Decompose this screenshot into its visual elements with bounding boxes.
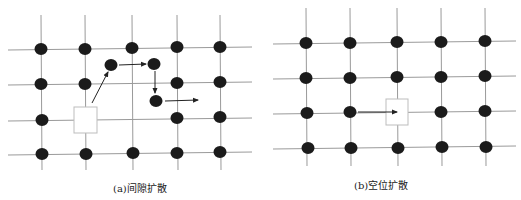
lattice-atom xyxy=(35,43,48,55)
migration-arrow-icon xyxy=(119,64,146,65)
lattice-atom xyxy=(345,142,358,154)
lattice-atom xyxy=(391,36,404,48)
lattice-atom xyxy=(171,77,184,89)
lattice-atom xyxy=(300,37,313,49)
lattice-atom xyxy=(344,37,357,49)
diffusion-diagram xyxy=(0,0,521,200)
interstitial-atom xyxy=(105,59,118,71)
lattice-atom xyxy=(79,78,92,90)
lattice-atom xyxy=(214,76,227,88)
lattice-atom xyxy=(171,41,184,53)
lattice-line-vertical xyxy=(41,15,42,170)
lattice-line-vertical xyxy=(85,15,86,170)
lattice-line-vertical xyxy=(177,15,178,170)
lattice-atom xyxy=(301,107,314,119)
lattice-atom xyxy=(480,141,493,153)
lattice-atom xyxy=(479,105,492,117)
lattice-atom xyxy=(80,148,93,160)
lattice-atom xyxy=(79,43,92,55)
lattice-atom xyxy=(435,71,448,83)
lattice-atom xyxy=(302,142,315,154)
lattice-atom xyxy=(344,72,357,84)
lattice-atom xyxy=(435,106,448,118)
lattice-atom xyxy=(171,147,184,159)
lattice-atom xyxy=(479,70,492,82)
lattice-atom xyxy=(35,78,48,90)
lattice-atom xyxy=(436,141,449,153)
lattice-atom xyxy=(171,112,184,124)
lattice-atom xyxy=(344,106,357,118)
lattice-atom xyxy=(36,114,49,126)
interstitial-atom xyxy=(148,58,161,70)
vacancy-site xyxy=(74,107,97,133)
interstitial-diffusion-panel xyxy=(8,15,252,170)
lattice-atom xyxy=(300,72,313,84)
lattice-atom xyxy=(36,148,49,160)
caption-vacancy-diffusion: (b)空位扩散 xyxy=(354,177,408,192)
lattice-atom xyxy=(435,36,448,48)
lattice-line-vertical xyxy=(132,15,133,170)
lattice-atom xyxy=(391,71,404,83)
migration-arrow-icon xyxy=(92,72,108,103)
lattice-atom xyxy=(126,42,139,54)
lattice-atom xyxy=(127,147,140,159)
migration-arrow-icon xyxy=(165,100,198,101)
vacancy-diffusion-panel xyxy=(273,8,516,166)
caption-interstitial-diffusion: (a)间隙扩散 xyxy=(113,180,167,195)
lattice-atom xyxy=(479,35,492,47)
lattice-atom xyxy=(214,41,227,53)
interstitial-atom xyxy=(150,95,163,107)
lattice-atom xyxy=(392,142,405,154)
lattice-atom xyxy=(214,111,227,123)
lattice-atom xyxy=(214,146,227,158)
